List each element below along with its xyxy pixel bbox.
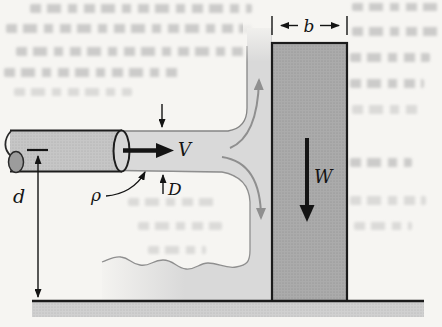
density-leader-arrow bbox=[106, 172, 145, 196]
textbook-figure-page: { "diagram": { "description": "Fluid jet… bbox=[0, 0, 442, 327]
vertical-gate: W bbox=[272, 43, 347, 302]
pipe-body bbox=[10, 131, 122, 172]
gate-weight-label: W bbox=[314, 166, 334, 187]
ground-strip bbox=[32, 301, 424, 317]
gate-body bbox=[272, 43, 347, 302]
height-label: d bbox=[13, 185, 25, 207]
height-dimension: d bbox=[13, 156, 38, 297]
rising-sheet-fade bbox=[243, 20, 271, 62]
density-label: ρ bbox=[90, 185, 101, 205]
width-label: b bbox=[304, 16, 315, 36]
pipe bbox=[5, 131, 129, 173]
fluid-jet-gate-diagram: W V D ρ bbox=[0, 0, 442, 327]
diameter-label: D bbox=[167, 179, 182, 199]
velocity-label: V bbox=[178, 139, 193, 160]
ground bbox=[32, 301, 424, 317]
pipe-broken-end-wall bbox=[9, 152, 24, 173]
width-dimension: b bbox=[272, 16, 347, 36]
figure-canvas: W V D ρ bbox=[0, 0, 442, 327]
density-annotation: ρ bbox=[90, 172, 145, 205]
jet-upper-boundary bbox=[122, 46, 247, 131]
